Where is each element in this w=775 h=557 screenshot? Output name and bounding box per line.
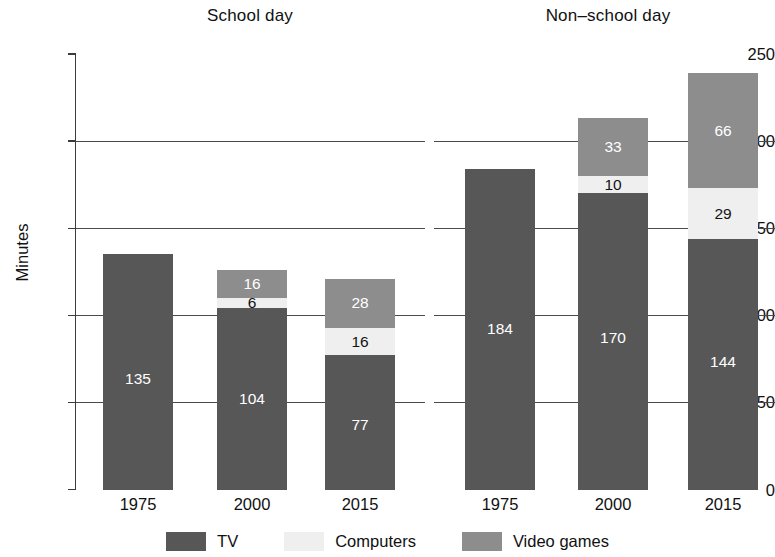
gridline [76, 228, 425, 229]
y-axis-line [75, 54, 76, 490]
x-tick-label: 2000 [217, 495, 287, 514]
legend-item-tv[interactable]: TV [166, 532, 238, 551]
y-axis-title: Minutes [13, 198, 32, 308]
y-tick-mark [68, 489, 76, 490]
legend-swatch-icon [284, 532, 324, 551]
legend-label: Video games [513, 532, 609, 551]
bar-segment-tv[interactable]: 77 [325, 355, 395, 489]
panel-title-non-school-day: Non–school day [518, 6, 698, 26]
bar-segment-computers[interactable]: 6 [217, 298, 287, 308]
legend-label: Computers [335, 532, 416, 551]
chart-legend: TVComputersVideo games [0, 528, 775, 554]
legend-swatch-icon [166, 532, 206, 551]
legend-item-video-games[interactable]: Video games [462, 532, 609, 551]
y-tick-mark [68, 402, 76, 403]
bar-segment-video-games[interactable]: 66 [688, 73, 758, 188]
bar-segment-tv[interactable]: 184 [465, 169, 535, 490]
bar-segment-computers[interactable]: 29 [688, 188, 758, 239]
x-tick-label: 2000 [578, 495, 648, 514]
legend-item-computers[interactable]: Computers [284, 532, 416, 551]
bar-segment-tv[interactable]: 135 [103, 254, 173, 489]
x-tick-label: 2015 [688, 495, 758, 514]
legend-label: TV [217, 532, 238, 551]
bar-segment-tv[interactable]: 170 [578, 193, 648, 489]
y-tick-label: 250 [715, 45, 775, 64]
bar-segment-video-games[interactable]: 33 [578, 118, 648, 175]
x-tick-label: 1975 [465, 495, 535, 514]
bar-segment-tv[interactable]: 104 [217, 308, 287, 489]
y-tick-mark [68, 228, 76, 229]
y-tick-mark [68, 53, 76, 54]
panel-title-school-day: School day [160, 6, 340, 26]
bar-segment-computers[interactable]: 16 [325, 328, 395, 356]
bar-segment-computers[interactable]: 10 [578, 176, 648, 193]
x-tick-label: 2015 [325, 495, 395, 514]
x-tick-label: 1975 [103, 495, 173, 514]
stacked-bar-chart-figure: School day Non–school day Minutes 250200… [0, 0, 775, 557]
y-tick-mark [68, 315, 76, 316]
bar-segment-tv[interactable]: 144 [688, 239, 758, 490]
y-tick-mark [68, 140, 76, 141]
bar-segment-video-games[interactable]: 28 [325, 279, 395, 328]
gridline [76, 141, 425, 142]
bar-segment-video-games[interactable]: 16 [217, 270, 287, 298]
legend-swatch-icon [462, 532, 502, 551]
